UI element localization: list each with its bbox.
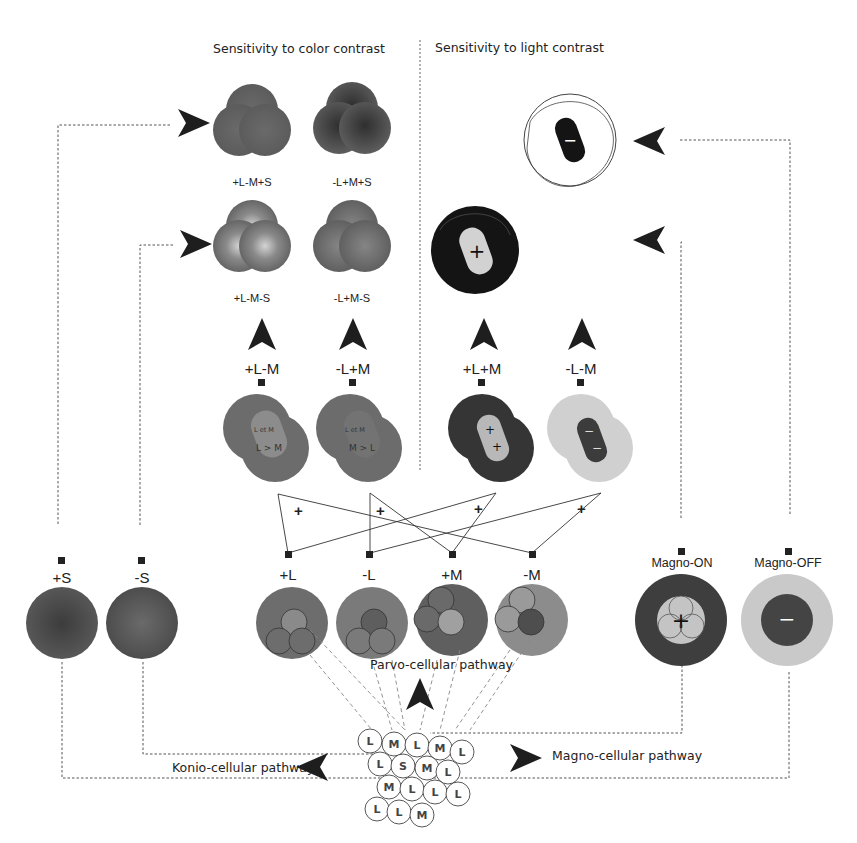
connector-square bbox=[366, 551, 373, 558]
arrow-left-icon bbox=[296, 753, 328, 781]
konio-cell-plus-s bbox=[26, 587, 98, 659]
opponent-cell-minus-l-minus-m: − − bbox=[547, 394, 633, 482]
arrow-right-icon bbox=[178, 109, 210, 137]
minus-sign-icon: − bbox=[779, 607, 796, 631]
parvo-label: +M bbox=[441, 566, 462, 583]
cone-label: L bbox=[376, 758, 383, 771]
arrow-right-icon bbox=[180, 230, 212, 258]
arrow-up-icon bbox=[470, 318, 498, 350]
cone-label: L bbox=[454, 788, 461, 801]
magno-cell-on: + bbox=[635, 574, 727, 666]
plus-sign-icon: + bbox=[492, 440, 502, 454]
magno-pathway-label: Magno-cellular pathway bbox=[552, 748, 703, 763]
cone-row: L L M bbox=[365, 797, 434, 827]
cell-label: -L+M+S bbox=[332, 176, 371, 188]
color-cell-minus-l-plus-m-plus-s: -L+M+S bbox=[313, 82, 391, 188]
light-cell-on-center: + bbox=[431, 206, 519, 294]
minus-sign-icon: − bbox=[563, 131, 576, 150]
cone-label: L bbox=[395, 806, 402, 819]
plus-sign-icon: + bbox=[294, 502, 303, 519]
magno-label: Magno-OFF bbox=[754, 556, 822, 570]
parvo-label: +L bbox=[279, 566, 296, 583]
light-cell-off-center: − bbox=[524, 94, 616, 187]
connector-square bbox=[449, 551, 456, 558]
opponent-cell-minus-l-plus-m: L et M M > L bbox=[316, 394, 402, 482]
opponent-cell-plus-l-plus-m: + + bbox=[448, 394, 534, 482]
opponent-label: +L-M bbox=[245, 360, 280, 377]
cone-label: L bbox=[431, 786, 438, 799]
opponent-label: +L+M bbox=[463, 360, 501, 377]
connector-square bbox=[285, 551, 292, 558]
cone-label: M bbox=[435, 742, 446, 755]
color-cell-minus-l-plus-m-minus-s: -L+M-S bbox=[313, 200, 391, 304]
inner-label: L > M bbox=[256, 443, 282, 453]
connector-square bbox=[577, 379, 584, 386]
cone-label: L bbox=[444, 766, 451, 779]
plus-sign-icon: + bbox=[485, 423, 495, 437]
konio-line-minus-s-bottom bbox=[143, 662, 385, 754]
cone-label: M bbox=[389, 738, 400, 751]
cone-label: M bbox=[417, 809, 428, 822]
arrow-left-icon bbox=[633, 226, 665, 254]
opponent-wiring bbox=[278, 493, 601, 553]
plus-sign-icon: + bbox=[376, 502, 385, 519]
magno-line-on-bottom bbox=[430, 665, 682, 733]
header-light-contrast: Sensitivity to light contrast bbox=[435, 40, 604, 55]
connector-square bbox=[258, 379, 265, 386]
cone-label: L bbox=[408, 783, 415, 796]
cone-label: M bbox=[384, 781, 395, 794]
connector-square bbox=[58, 557, 65, 564]
inner-label: M > L bbox=[349, 443, 375, 453]
arrow-up-icon bbox=[339, 318, 367, 350]
visual-pathway-diagram: Sensitivity to color contrast Sensitivit… bbox=[0, 0, 857, 843]
konio-cell-minus-s bbox=[106, 587, 178, 659]
cone-label: L bbox=[458, 746, 465, 759]
opponent-cell-plus-l-minus-m: L et M L > M bbox=[223, 394, 309, 482]
magno-label: Magno-ON bbox=[651, 556, 712, 570]
cone-label: L bbox=[373, 803, 380, 816]
cell-label: +L-M-S bbox=[234, 292, 270, 304]
parvo-label: -M bbox=[523, 566, 541, 583]
parvo-pathway-label: Parvo-cellular pathway bbox=[370, 657, 514, 672]
parvo-cell-plus-m bbox=[414, 584, 488, 656]
inner-label: L et M bbox=[254, 426, 274, 434]
connector-square bbox=[785, 548, 792, 555]
parvo-cell-minus-m bbox=[495, 584, 568, 656]
cell-label: +L-M+S bbox=[232, 176, 271, 188]
plus-sign-icon: + bbox=[469, 239, 486, 263]
opponent-label: -L-M bbox=[566, 360, 597, 377]
arrow-left-icon bbox=[633, 127, 665, 155]
color-cell-plus-l-minus-m-plus-s: +L-M+S bbox=[213, 84, 291, 188]
arrow-up-icon bbox=[248, 318, 276, 350]
parvo-cell-plus-l bbox=[256, 587, 328, 659]
cone-label: L bbox=[413, 739, 420, 752]
inner-label: L et M bbox=[345, 426, 365, 434]
magno-cell-off: − bbox=[741, 574, 833, 666]
connector-square bbox=[349, 379, 356, 386]
cone-label: M bbox=[422, 762, 433, 775]
konio-label: +S bbox=[53, 569, 72, 586]
cone-label: L bbox=[366, 735, 373, 748]
parvo-label: -L bbox=[362, 566, 375, 583]
minus-sign-icon: − bbox=[584, 424, 594, 438]
connector-square bbox=[138, 557, 145, 564]
cone-label: S bbox=[399, 760, 407, 773]
connector-square bbox=[529, 551, 536, 558]
arrow-up-icon bbox=[568, 318, 596, 350]
konio-label: -S bbox=[135, 569, 150, 586]
header-color-contrast: Sensitivity to color contrast bbox=[213, 41, 385, 56]
color-cell-plus-l-minus-m-minus-s: +L-M-S bbox=[213, 200, 291, 304]
cell-label: -L+M-S bbox=[334, 292, 370, 304]
magno-line-on bbox=[681, 242, 682, 518]
connector-square bbox=[678, 548, 685, 555]
plus-sign-icon: + bbox=[474, 500, 483, 517]
minus-sign-icon: − bbox=[592, 441, 602, 455]
parvo-cell-minus-l bbox=[336, 587, 408, 659]
connector-square bbox=[478, 379, 485, 386]
konio-line-minus-s bbox=[140, 245, 173, 525]
plus-sign-icon: + bbox=[672, 608, 690, 633]
arrow-right-icon bbox=[510, 744, 542, 772]
magno-line-off bbox=[680, 140, 790, 515]
konio-line-plus-s bbox=[58, 125, 170, 525]
plus-sign-icon: + bbox=[577, 500, 586, 517]
